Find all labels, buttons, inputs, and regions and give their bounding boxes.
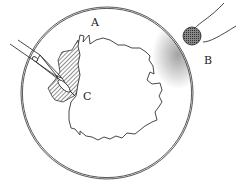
label-b: B xyxy=(204,55,212,66)
label-a: A xyxy=(91,17,99,28)
label-c: C xyxy=(83,91,91,102)
irregular-colony xyxy=(69,35,162,140)
round-probe xyxy=(183,3,236,45)
diagram-figure: A B C xyxy=(0,0,249,187)
